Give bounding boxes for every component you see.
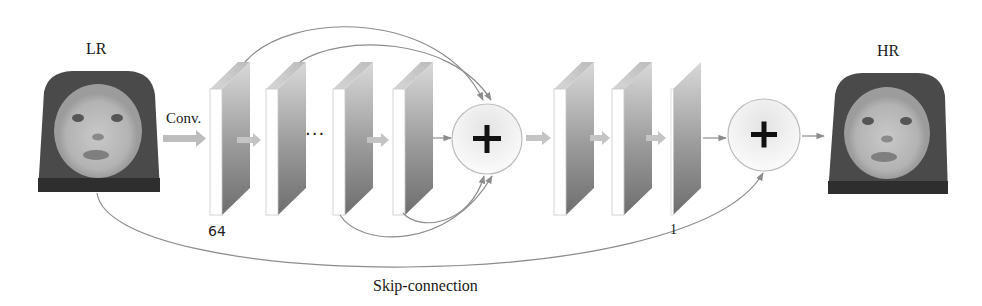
add-node-2 <box>728 99 800 171</box>
hr-label: HR <box>877 42 899 60</box>
last-channels-label: 1 <box>670 222 677 238</box>
conv-arrow <box>163 130 206 147</box>
add-node-1 <box>452 104 522 174</box>
first-channels-label: 64 <box>208 223 226 239</box>
conv-block-2 <box>266 62 306 215</box>
conv-block-4 <box>393 62 433 215</box>
diagram-svg <box>0 0 982 306</box>
skip-connection-label: Skip-connection <box>373 277 478 295</box>
hr-image <box>828 73 948 194</box>
conv-label: Conv. <box>166 110 201 127</box>
diagram-canvas: LR HR Conv. ... 64 1 Skip-connection <box>0 0 982 306</box>
lr-image <box>38 71 160 192</box>
conv-block-5 <box>554 62 594 215</box>
lr-label: LR <box>86 40 106 58</box>
ellipsis-label: ... <box>305 118 325 139</box>
conv-block-7 <box>671 62 701 215</box>
